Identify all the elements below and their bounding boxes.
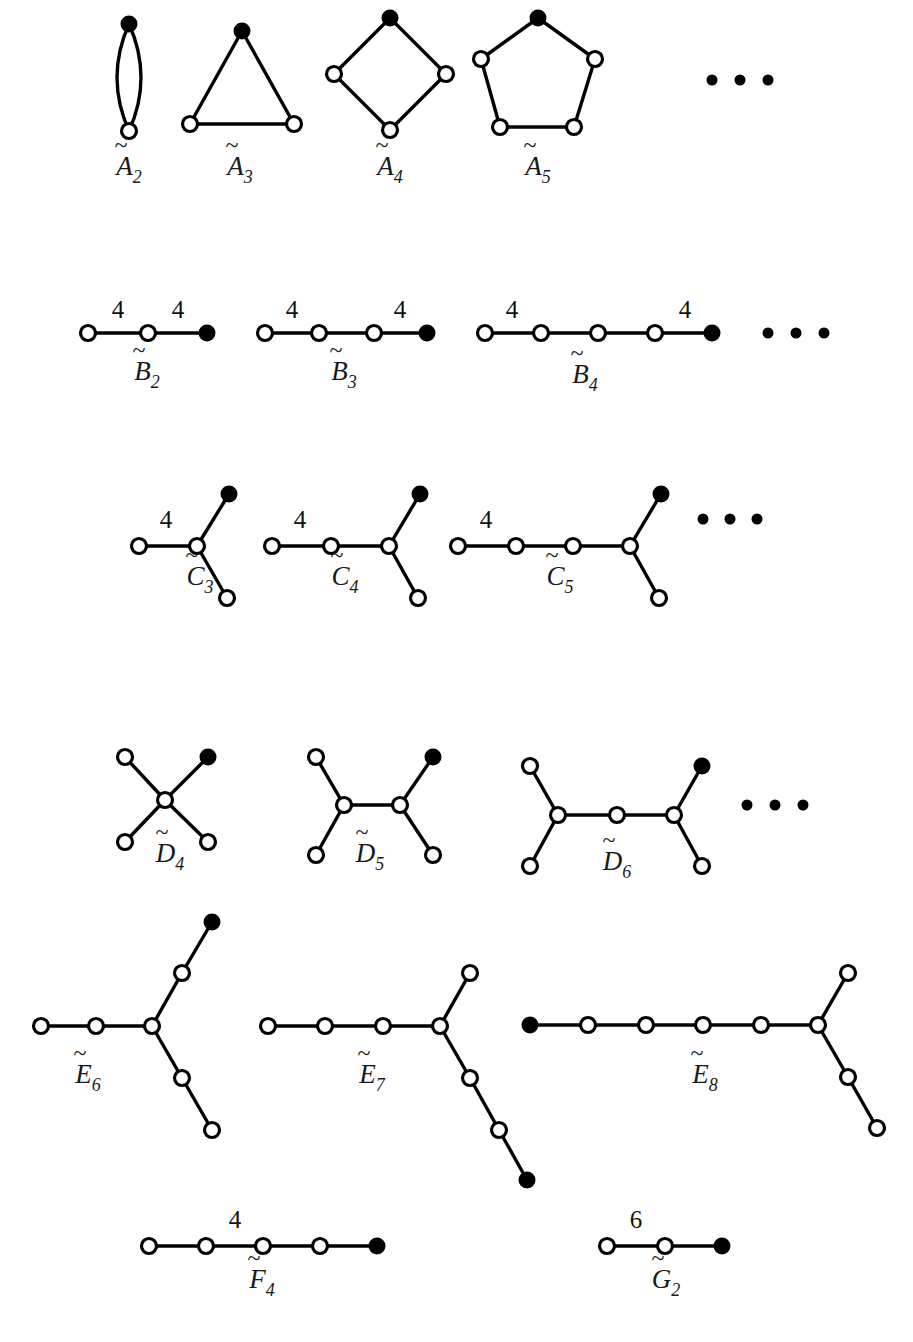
node-c3-lower[interactable] (220, 591, 235, 606)
node-e7-center[interactable] (433, 1019, 448, 1034)
diagram-A4[interactable]: A4~ (327, 11, 454, 188)
diagram-E8[interactable]: E8~ (523, 966, 885, 1136)
diagram-C3[interactable]: 4C3~ (132, 487, 237, 606)
node-e7-d3[interactable] (520, 1173, 535, 1188)
node-d4-lower-left[interactable] (118, 835, 133, 850)
node-e7-d1[interactable] (463, 1071, 478, 1086)
node-a5-upper-right[interactable] (588, 52, 603, 67)
node-d5-center-right[interactable] (393, 798, 408, 813)
node-d5-lower-right[interactable] (426, 848, 441, 863)
node-e8-center[interactable] (811, 1018, 826, 1033)
node-d4-lower-right[interactable] (201, 835, 216, 850)
node-g2-3[interactable] (715, 1239, 730, 1254)
node-c5-1[interactable] (451, 539, 466, 554)
diagram-A5[interactable]: A5~ (474, 11, 603, 188)
node-e8-d1[interactable] (841, 1070, 856, 1085)
diagram-E7[interactable]: E7~ (261, 966, 535, 1188)
diagram-F4[interactable]: 4F4~ (142, 1206, 385, 1300)
node-e6-u2[interactable] (205, 915, 220, 930)
node-b4-1[interactable] (478, 326, 493, 341)
diagram-B4[interactable]: 44B4~ (478, 296, 720, 395)
node-e6-u1[interactable] (175, 966, 190, 981)
node-a3-left[interactable] (183, 117, 198, 132)
node-c5-3[interactable] (566, 539, 581, 554)
node-b2-1[interactable] (81, 326, 96, 341)
node-c4-center[interactable] (382, 539, 397, 554)
diagram-G2[interactable]: 6G2~ (600, 1206, 730, 1300)
diagram-D5[interactable]: D5~ (309, 750, 441, 875)
node-e8-u1[interactable] (841, 966, 856, 981)
diagram-E6[interactable]: E6~ (34, 915, 220, 1138)
node-e6-h1[interactable] (34, 1019, 49, 1034)
node-d5-upper-left[interactable] (309, 750, 324, 765)
node-e7-u1[interactable] (463, 966, 478, 981)
node-d6-upper-left[interactable] (523, 759, 538, 774)
node-f4-2[interactable] (199, 1239, 214, 1254)
node-f4-5[interactable] (370, 1239, 385, 1254)
node-a5-upper-left[interactable] (474, 52, 489, 67)
node-f4-4[interactable] (313, 1239, 328, 1254)
node-d4-upper-left[interactable] (118, 750, 133, 765)
node-c4-upper[interactable] (413, 487, 428, 502)
node-e6-h2[interactable] (89, 1019, 104, 1034)
node-e6-center[interactable] (145, 1019, 160, 1034)
node-a5-top[interactable] (531, 11, 546, 26)
node-e6-d1[interactable] (175, 1071, 190, 1086)
node-a4-right[interactable] (439, 67, 454, 82)
diagram-C5[interactable]: 4C5~ (451, 487, 669, 606)
node-a3-right[interactable] (287, 117, 302, 132)
node-d6-middle[interactable] (610, 808, 625, 823)
node-e7-h1[interactable] (261, 1019, 276, 1034)
node-b4-4[interactable] (648, 326, 663, 341)
node-c5-lower[interactable] (652, 591, 667, 606)
node-d4-upper-right[interactable] (201, 750, 216, 765)
node-b4-5[interactable] (705, 326, 720, 341)
node-a2-top[interactable] (122, 17, 137, 32)
node-e7-h2[interactable] (318, 1019, 333, 1034)
node-c4-lower[interactable] (411, 591, 426, 606)
node-e8-h2[interactable] (581, 1018, 596, 1033)
node-a5-lower-right[interactable] (567, 120, 582, 135)
node-b3-3[interactable] (367, 326, 382, 341)
node-a4-top[interactable] (383, 11, 398, 26)
diagram-A2[interactable]: A2~ (114, 17, 142, 188)
node-c3-left[interactable] (132, 539, 147, 554)
node-b4-3[interactable] (591, 326, 606, 341)
node-b2-3[interactable] (200, 326, 215, 341)
node-e7-d2[interactable] (492, 1123, 507, 1138)
diagram-A3[interactable]: A3~ (183, 24, 302, 188)
node-d5-center-left[interactable] (337, 798, 352, 813)
node-e8-h5[interactable] (754, 1018, 769, 1033)
node-d5-upper-right[interactable] (426, 750, 441, 765)
node-b4-2[interactable] (534, 326, 549, 341)
diagram-D4[interactable]: D4~ (118, 750, 216, 875)
node-d5-lower-left[interactable] (309, 848, 324, 863)
node-b3-4[interactable] (420, 326, 435, 341)
diagram-D6[interactable]: D6~ (523, 759, 710, 883)
node-d6-lower-left[interactable] (523, 859, 538, 874)
diagram-B2[interactable]: 44B2~ (81, 296, 215, 392)
node-a5-lower-left[interactable] (493, 120, 508, 135)
node-e8-h3[interactable] (639, 1018, 654, 1033)
node-c3-upper[interactable] (222, 487, 237, 502)
node-d6-right-branch[interactable] (667, 808, 682, 823)
node-d6-left-branch[interactable] (551, 808, 566, 823)
node-g2-1[interactable] (600, 1239, 615, 1254)
node-d6-lower-right[interactable] (695, 859, 710, 874)
node-b3-2[interactable] (312, 326, 327, 341)
node-c4-1[interactable] (265, 539, 280, 554)
node-d4-center[interactable] (158, 793, 173, 808)
diagram-C4[interactable]: 4C4~ (265, 487, 428, 606)
node-e8-d2[interactable] (870, 1121, 885, 1136)
node-e8-h4[interactable] (696, 1018, 711, 1033)
node-f4-1[interactable] (142, 1239, 157, 1254)
node-c5-upper[interactable] (654, 487, 669, 502)
node-c5-2[interactable] (509, 539, 524, 554)
node-e8-h1[interactable] (523, 1018, 538, 1033)
node-c5-center[interactable] (623, 539, 638, 554)
node-a4-left[interactable] (327, 67, 342, 82)
node-e7-h3[interactable] (376, 1019, 391, 1034)
node-a3-top[interactable] (235, 24, 250, 39)
diagram-B3[interactable]: 44B3~ (258, 296, 435, 392)
node-d6-upper-right[interactable] (695, 759, 710, 774)
